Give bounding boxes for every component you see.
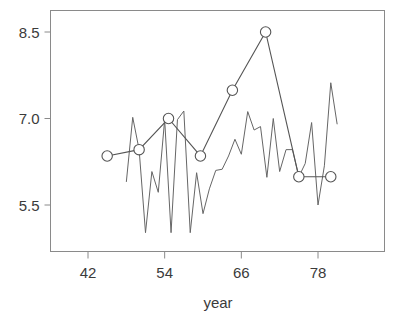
data-point-marker	[134, 144, 144, 154]
data-point-marker	[227, 85, 237, 95]
smoothed-series-markers	[102, 27, 336, 182]
y-tick-label: 8.5	[19, 24, 40, 41]
chart-root: 5.57.08.5 42546678 year	[0, 0, 402, 328]
y-tick-label: 7.0	[19, 110, 40, 127]
x-axis-tick-labels: 42546678	[80, 264, 327, 281]
x-axis-title: year	[203, 294, 232, 311]
x-tick-label: 42	[80, 264, 97, 281]
data-point-marker	[102, 151, 112, 161]
plot-frame	[51, 11, 385, 252]
data-point-marker	[195, 151, 205, 161]
x-axis-ticks	[88, 252, 318, 259]
data-point-marker	[260, 27, 270, 37]
x-tick-label: 78	[310, 264, 327, 281]
chart-canvas: 5.57.08.5 42546678 year	[0, 0, 402, 328]
y-tick-label: 5.5	[19, 197, 40, 214]
y-axis-tick-labels: 5.57.08.5	[19, 24, 40, 214]
annual-series-line	[126, 83, 337, 233]
x-tick-label: 54	[156, 264, 173, 281]
data-point-marker	[326, 172, 336, 182]
data-point-marker	[294, 172, 304, 182]
annual-series-path	[126, 83, 337, 233]
data-point-marker	[163, 113, 173, 123]
y-axis-ticks	[45, 32, 51, 205]
x-tick-label: 66	[233, 264, 250, 281]
